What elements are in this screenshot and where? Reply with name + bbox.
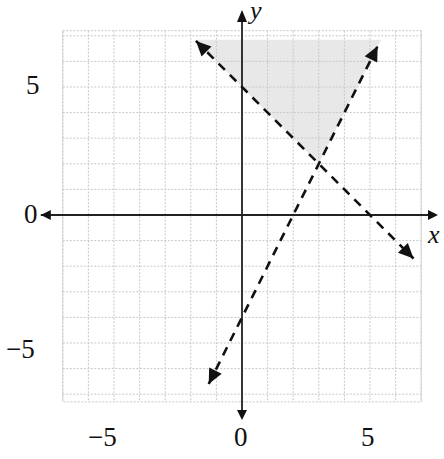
x-axis-left-arrow-icon [41, 210, 51, 220]
x-tick-5: 5 [361, 424, 375, 451]
y-tick-0: 0 [24, 201, 38, 228]
arrowhead-icon [209, 367, 222, 384]
x-tick-0: 0 [234, 424, 248, 451]
y-tick-neg5: −5 [6, 336, 35, 363]
x-tick-neg5: −5 [88, 424, 117, 451]
x-axis-label: x [428, 222, 440, 248]
y-tick-5: 5 [26, 72, 40, 99]
y-axis-top-arrow-icon [237, 10, 247, 22]
coordinate-plane [0, 0, 444, 459]
y-axis-label: y [250, 0, 262, 24]
shaded-region [195, 40, 381, 164]
